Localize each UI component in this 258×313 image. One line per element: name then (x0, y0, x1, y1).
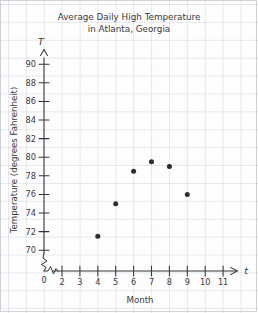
x-tick-label-7: 7 (149, 277, 154, 287)
x-axis-variable-label: t (244, 265, 249, 276)
x-tick-label-11: 11 (218, 277, 228, 287)
x-tick-label-2: 2 (59, 277, 64, 287)
y-tick-label-80: 80 (26, 152, 36, 162)
x-tick-label-9: 9 (185, 277, 190, 287)
y-axis-variable-label: T (38, 36, 45, 47)
y-tick-label-82: 82 (26, 134, 36, 144)
chart-title-line-2: in Atlanta, Georgia (88, 24, 170, 34)
y-axis-tick-labels: 90 88 86 84 82 80 78 76 74 72 70 (26, 59, 36, 255)
data-point (167, 164, 172, 169)
x-tick-label-5: 5 (113, 277, 118, 287)
y-axis-arrow (41, 50, 48, 56)
y-tick-label-90: 90 (26, 59, 36, 69)
chart-page: Average Daily High Temperature in Atlant… (0, 0, 258, 313)
data-points-layer (95, 159, 190, 238)
data-point (95, 234, 100, 239)
y-tick-label-84: 84 (26, 115, 36, 125)
y-tick-label-70: 70 (26, 245, 36, 255)
x-tick-label-3: 3 (77, 277, 82, 287)
chart-title-line-1: Average Daily High Temperature (58, 12, 201, 22)
x-tick-label-8: 8 (167, 277, 172, 287)
y-tick-label-86: 86 (26, 96, 36, 106)
x-axis-title: Month (127, 295, 154, 305)
data-point (113, 201, 118, 206)
x-tick-label-6: 6 (131, 277, 136, 287)
x-tick-label-4: 4 (95, 277, 100, 287)
y-tick-label-74: 74 (26, 208, 36, 218)
data-point (149, 159, 154, 164)
y-tick-label-72: 72 (26, 227, 36, 237)
scatter-plot: Average Daily High Temperature in Atlant… (0, 0, 258, 313)
data-point (131, 169, 136, 174)
y-axis-break-icon (42, 253, 48, 271)
x-tick-label-10: 10 (200, 277, 210, 287)
y-tick-label-76: 76 (26, 189, 36, 199)
y-tick-label-78: 78 (26, 171, 36, 181)
y-axis-title: Temperature (degrees Fahrenheit) (9, 87, 19, 235)
x-axis-tick-labels: 2 3 4 5 6 7 8 9 10 11 (59, 277, 228, 287)
origin-label: 0 (41, 275, 46, 285)
data-point (185, 192, 190, 197)
y-tick-label-88: 88 (26, 78, 36, 88)
